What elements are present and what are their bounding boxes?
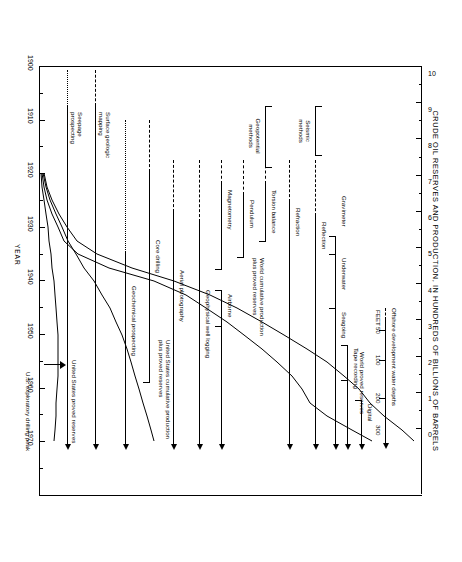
tech-label-refraction: Refraction	[295, 208, 302, 236]
label-us-cumulative: United States cumulative production plus…	[157, 340, 172, 439]
tech-label-underwater: Underwater	[341, 258, 348, 290]
tech-label-offshore: Offshore development water depths	[391, 308, 398, 406]
rotated-figure-stage: CRUDE OIL RESERVES AND PRODUCTION, IN HU…	[0, 0, 462, 562]
depth-tick-200: 200	[375, 393, 382, 403]
group-label-geopotential: Geopotential methods	[248, 100, 262, 172]
label-world-cumulative: World cumulative production plus proved …	[251, 258, 266, 336]
depth-unit-feet: FEET	[375, 310, 382, 326]
drilling-peak-label: U.S. exploratory drilling peak	[25, 372, 32, 451]
tech-label-airborne: Airborne	[227, 294, 234, 317]
tech-label-seepage: Seepage prospecting	[70, 112, 84, 144]
group-label-seismic: Seismic methods	[298, 98, 312, 164]
depth-tick-100: 100	[375, 355, 382, 365]
depth-tick-300: 300	[375, 425, 382, 435]
tech-label-tape: Tape recording	[353, 348, 360, 389]
depth-tick-50: 50	[375, 327, 382, 334]
label-us-proved-reserves: United States proved reserves	[71, 360, 78, 443]
tech-label-digital: Digital	[367, 404, 374, 421]
tech-label-pendulum: Pendulum	[249, 200, 256, 228]
tech-label-coredrill: Core drilling	[155, 240, 162, 273]
tech-label-geochem: Geochemical prospecting	[131, 286, 138, 356]
curves-layer	[0, 0, 462, 562]
tech-label-surface: Surface geologic mapping	[98, 112, 112, 158]
tech-label-seagoing: Seagoing	[341, 312, 348, 338]
drilling-peak-arrow	[60, 361, 66, 369]
tech-label-magnetometry: Magnetometry	[227, 190, 234, 230]
tech-label-torsion: Torsion balance	[271, 190, 278, 233]
figure: CRUDE OIL RESERVES AND PRODUCTION, IN HU…	[0, 0, 462, 562]
tech-label-gravimeter: Gravimeter	[341, 196, 348, 227]
tech-label-aerial: Aerial photography	[179, 270, 186, 322]
tech-label-welllog: Geophysical well logging	[205, 290, 212, 358]
tech-label-reflection: Reflection	[321, 222, 328, 250]
